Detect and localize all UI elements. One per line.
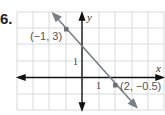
y-axis-up-arrow-icon [80,13,85,20]
grid [17,12,164,110]
x-axis-left-arrow-icon [18,75,25,80]
point-neg1-3 [64,27,69,32]
x-tick-label: 1 [96,80,101,91]
point-2-neg0.5 [113,83,118,88]
y-tick-label: 1 [73,56,78,67]
point-label-2: (2, −0.5) [120,80,161,92]
y-axis-label: y [87,11,92,23]
coordinate-plane [0,0,165,115]
x-axis-label: x [156,62,161,74]
point-label-1: (−1, 3) [30,30,62,42]
y-axis-down-arrow-icon [80,103,85,110]
